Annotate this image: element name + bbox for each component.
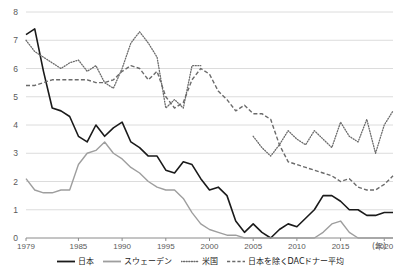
y-axis-tick-label: 0 bbox=[4, 234, 18, 242]
legend-swatch bbox=[57, 258, 75, 265]
legend-item: 日本を除くDACドナー平均 bbox=[227, 257, 345, 266]
x-axis-tick-label: 1990 bbox=[105, 243, 139, 251]
x-axis-tick-label: 2010 bbox=[280, 243, 314, 251]
series-line bbox=[26, 66, 393, 190]
legend-item: 日本 bbox=[57, 257, 94, 266]
legend-label: 米国 bbox=[202, 257, 218, 266]
y-axis-tick-label: 1 bbox=[4, 206, 18, 214]
x-axis-tick-label: 2005 bbox=[236, 243, 270, 251]
chart-legend: 日本スウェーデン米国日本を除くDACドナー平均 bbox=[0, 252, 401, 270]
x-axis-tick-label: 1985 bbox=[61, 243, 95, 251]
legend-label: 日本 bbox=[78, 257, 94, 266]
y-axis-tick-label: 2 bbox=[4, 178, 18, 186]
y-axis-tick-label: 6 bbox=[4, 65, 18, 73]
y-axis-tick-label: 5 bbox=[4, 93, 18, 101]
legend-label: スウェーデン bbox=[124, 257, 172, 266]
y-axis-tick-label: 7 bbox=[4, 36, 18, 44]
chart-plot-area bbox=[0, 0, 401, 273]
y-axis-tick-label: 4 bbox=[4, 121, 18, 129]
x-axis-tick-label: 2000 bbox=[193, 243, 227, 251]
series-line bbox=[253, 111, 393, 156]
legend-item: スウェーデン bbox=[103, 257, 172, 266]
x-axis-tick-label: 1995 bbox=[149, 243, 183, 251]
series-line bbox=[26, 29, 393, 238]
chart-container: 0123456781979198519901995200020052010201… bbox=[0, 0, 401, 273]
legend-swatch bbox=[103, 258, 121, 265]
y-axis-tick-label: 8 bbox=[4, 8, 18, 16]
legend-swatch bbox=[181, 258, 199, 265]
x-axis-tick-label: 1979 bbox=[9, 243, 43, 251]
y-axis-tick-label: 3 bbox=[4, 149, 18, 157]
x-axis-unit-label: (年) bbox=[372, 243, 386, 251]
legend-item: 米国 bbox=[181, 257, 218, 266]
x-axis-tick-label: 2015 bbox=[324, 243, 358, 251]
legend-swatch bbox=[227, 258, 245, 265]
legend-label: 日本を除くDACドナー平均 bbox=[248, 257, 345, 266]
